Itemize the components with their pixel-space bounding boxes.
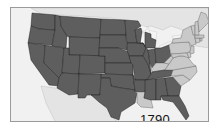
state-massachusetts bbox=[195, 35, 204, 38]
state-iowa bbox=[127, 43, 146, 56]
state-wyoming bbox=[69, 37, 100, 56]
state-montana bbox=[60, 16, 101, 38]
state-south-dakota bbox=[99, 35, 127, 50]
state-mississippi bbox=[144, 79, 156, 100]
map-frame: 1790 bbox=[10, 7, 209, 122]
us-map bbox=[11, 8, 209, 122]
state-kansas bbox=[105, 63, 133, 75]
state-rhode-island bbox=[200, 38, 202, 41]
state-colorado bbox=[79, 55, 105, 74]
state-new-mexico bbox=[78, 74, 101, 98]
year-label: 1790 bbox=[140, 112, 170, 122]
state-new-jersey bbox=[190, 46, 194, 54]
state-connecticut bbox=[195, 38, 200, 43]
state-north-dakota bbox=[100, 19, 126, 35]
